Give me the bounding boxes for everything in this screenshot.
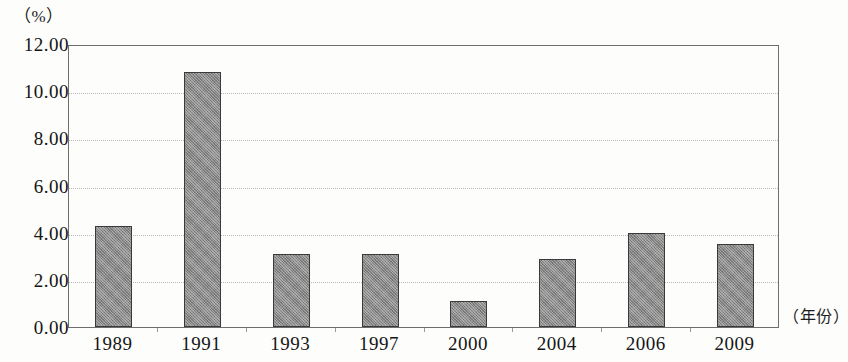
bar: [184, 72, 221, 327]
bar: [273, 254, 310, 327]
bar-slot: [158, 46, 247, 327]
x-axis-tick-label: 2009: [685, 333, 785, 355]
y-axis-tick-label: 12.00: [0, 34, 69, 56]
x-axis-tick-label: 2006: [596, 333, 696, 355]
bar-slot: [247, 46, 336, 327]
y-axis-tick-label: 8.00: [0, 128, 69, 150]
bar: [95, 226, 132, 327]
x-axis-tick: [690, 328, 691, 332]
y-axis-tick-label: 2.00: [0, 270, 69, 292]
y-axis-tick-label: 4.00: [0, 223, 69, 245]
x-axis-tick-label: 2004: [507, 333, 607, 355]
bar: [450, 301, 487, 327]
bar-slot: [69, 46, 158, 327]
y-axis-tick-label: 0.00: [0, 317, 69, 339]
x-axis-tick-label: 1993: [240, 333, 340, 355]
bar-slot: [425, 46, 514, 327]
bar: [628, 233, 665, 327]
bar: [717, 244, 754, 327]
bar-slot: [691, 46, 780, 327]
bar: [362, 254, 399, 327]
x-axis-tick: [335, 328, 336, 332]
x-axis-unit-label: （年份）: [783, 303, 848, 327]
x-axis-tick: [512, 328, 513, 332]
x-axis-tick-label: 1997: [329, 333, 429, 355]
x-axis-tick-label: 2000: [418, 333, 518, 355]
y-axis-tick-label: 6.00: [0, 176, 69, 198]
bar-slot: [602, 46, 691, 327]
plot-area: [68, 45, 779, 328]
bar-chart: （%） （年份） 12.0010.008.006.004.002.000.00 …: [0, 0, 848, 362]
y-axis-unit-label: （%）: [14, 2, 64, 27]
x-axis-tick: [424, 328, 425, 332]
y-axis-tick-label: 10.00: [0, 81, 69, 103]
x-axis-tick-label: 1989: [62, 333, 162, 355]
bar-slot: [336, 46, 425, 327]
x-axis-tick: [601, 328, 602, 332]
x-axis-tick-label: 1991: [151, 333, 251, 355]
x-axis-tick: [246, 328, 247, 332]
x-axis-tick: [157, 328, 158, 332]
bar-slot: [513, 46, 602, 327]
bar: [539, 259, 576, 327]
